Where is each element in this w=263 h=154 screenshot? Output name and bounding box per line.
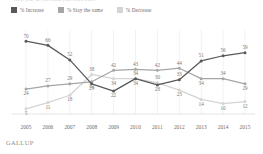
data-label: 42 <box>155 62 161 68</box>
data-point <box>90 73 93 76</box>
data-label: 34 <box>111 80 117 86</box>
legend-item-increase[interactable]: % Increase <box>11 7 44 13</box>
legend-swatch-increase <box>11 7 17 13</box>
data-point <box>112 69 115 72</box>
data-label: 43 <box>133 61 139 67</box>
legend-label-decrease: % Decrease <box>126 7 152 13</box>
data-point <box>68 58 71 61</box>
x-tick-2013: 2013 <box>196 124 207 130</box>
data-label: 34 <box>199 80 205 86</box>
chart-container: Next year, do you think your taxes will.… <box>0 0 263 154</box>
data-label: 31 <box>89 83 95 89</box>
x-tick-2011: 2011 <box>152 124 163 130</box>
data-label: 30 <box>155 74 161 80</box>
data-label: 5 <box>25 110 28 116</box>
data-label: 22 <box>111 92 117 98</box>
data-point <box>222 77 225 80</box>
data-label: 29 <box>67 75 73 81</box>
data-label: 33 <box>177 71 183 77</box>
x-tick-2010: 2010 <box>130 124 141 130</box>
data-label: 34 <box>133 80 139 86</box>
x-tick-2006: 2006 <box>43 124 54 130</box>
x-tick-2012: 2012 <box>174 124 185 130</box>
chart-legend: % Increase % Stay the same % Decrease <box>11 7 165 13</box>
data-label: 28 <box>155 86 161 92</box>
data-label: 44 <box>177 60 183 66</box>
data-point <box>200 59 203 62</box>
data-label: 38 <box>89 66 95 72</box>
legend-label-increase: % Increase <box>20 7 44 13</box>
data-point <box>222 54 225 57</box>
x-tick-2014: 2014 <box>218 124 229 130</box>
plot-area: 7066522922342833515659242729314243424434… <box>0 24 263 124</box>
x-axis-tick-labels: 2005200620072008200920102011201220132014… <box>0 124 263 136</box>
data-point <box>46 84 49 87</box>
data-point <box>244 51 247 54</box>
data-label: 24 <box>23 90 29 96</box>
chart-svg: 7066522922342833515659242729314243424434… <box>0 24 263 124</box>
data-label: 51 <box>199 52 205 58</box>
data-label: 34 <box>133 70 139 76</box>
x-tick-2007: 2007 <box>64 124 75 130</box>
data-point <box>25 40 28 43</box>
data-label: 27 <box>45 77 51 83</box>
data-point <box>46 44 49 47</box>
legend-swatch-decrease <box>117 7 123 13</box>
data-point <box>178 67 181 70</box>
legend-item-decrease[interactable]: % Decrease <box>117 7 152 13</box>
data-label: 66 <box>45 37 51 43</box>
data-point <box>156 69 159 72</box>
data-label: 70 <box>23 33 29 39</box>
data-label: 52 <box>67 51 73 57</box>
data-label: 10 <box>221 105 227 111</box>
legend-item-stay-the-same[interactable]: % Stay the same <box>58 7 103 13</box>
x-tick-2015: 2015 <box>240 124 251 130</box>
x-tick-2009: 2009 <box>108 124 119 130</box>
data-point <box>178 78 181 81</box>
data-label: 18 <box>67 96 73 102</box>
data-label: 14 <box>199 101 205 107</box>
data-label: 12 <box>242 103 248 109</box>
cut-off-title: Next year, do you think your taxes will.… <box>14 0 214 3</box>
legend-label-stay-the-same: % Stay the same <box>67 7 103 13</box>
data-label: 34 <box>221 70 227 76</box>
data-point <box>68 82 71 85</box>
data-label: 59 <box>242 44 248 50</box>
legend-swatch-stay-the-same <box>58 7 64 13</box>
data-label: 56 <box>221 47 227 53</box>
gallup-brand: GALLUP <box>6 139 34 146</box>
x-tick-2005: 2005 <box>21 124 32 130</box>
data-label: 29 <box>242 85 248 91</box>
data-label: 23 <box>177 91 183 97</box>
x-tick-2008: 2008 <box>86 124 97 130</box>
data-label: 42 <box>111 62 117 68</box>
data-label: 11 <box>45 104 50 110</box>
